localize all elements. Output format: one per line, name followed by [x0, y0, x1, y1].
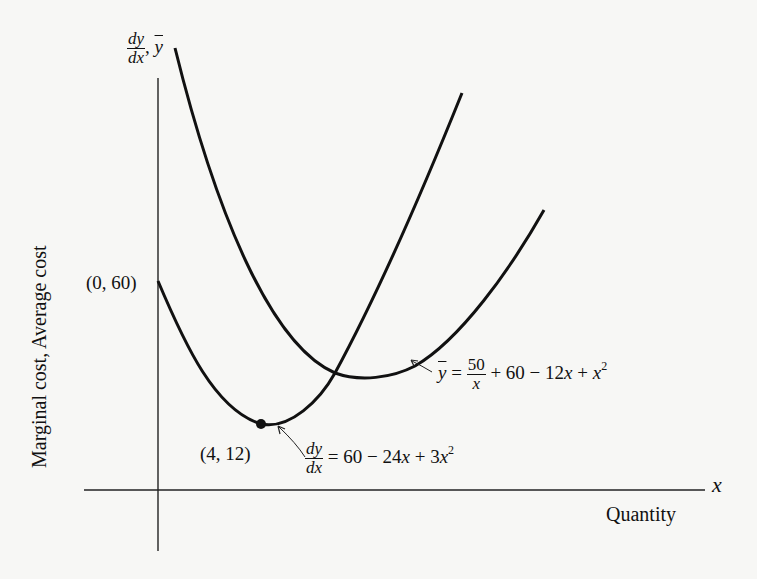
x-axis-label: Quantity — [606, 504, 676, 524]
comma: , — [145, 36, 150, 57]
marginal-cost-equation: dy dx = 60 − 24x + 3x2 — [305, 440, 454, 477]
marginal-cost-curve — [158, 93, 462, 425]
ac-rhs-b: + — [573, 362, 593, 383]
ac-rhs-a: + 60 − 12 — [490, 362, 564, 383]
y-bar-symbol: y — [155, 36, 163, 57]
y-axis-symbol: dy dx , y — [127, 30, 163, 67]
ac-numerator: 50 — [467, 356, 486, 375]
mc-denominator: dx — [305, 459, 323, 477]
mc-x2: x — [440, 446, 448, 467]
ac-lhs: y — [438, 362, 446, 383]
point-label-minimum: (4, 12) — [200, 444, 251, 463]
derivative-denominator: dx — [127, 49, 145, 67]
mc-minimum-point — [256, 419, 266, 429]
ac-x2: x — [593, 362, 601, 383]
point-label-intercept: (0, 60) — [86, 273, 137, 292]
y-axis-label: Marginal cost, Average cost — [28, 245, 51, 468]
mc-exponent: 2 — [448, 443, 454, 457]
mc-fraction: dy dx — [305, 440, 323, 477]
ac-denominator: x — [467, 375, 486, 393]
mc-pointer-arrow — [279, 427, 305, 457]
ac-equals: = — [451, 362, 462, 383]
ac-x: x — [564, 362, 572, 383]
y-axis-derivative: dy dx — [127, 30, 145, 67]
ac-fraction: 50 x — [467, 356, 486, 393]
mc-rhs-a: = 60 − 24 — [328, 446, 402, 467]
mc-x: x — [401, 446, 409, 467]
mc-rhs-b: + 3 — [410, 446, 440, 467]
mc-numerator: dy — [305, 440, 323, 459]
average-cost-equation: y = 50 x + 60 − 12x + x2 — [438, 356, 607, 393]
ac-exponent: 2 — [601, 359, 607, 373]
derivative-numerator: dy — [127, 30, 145, 49]
x-axis-symbol: x — [712, 474, 722, 496]
